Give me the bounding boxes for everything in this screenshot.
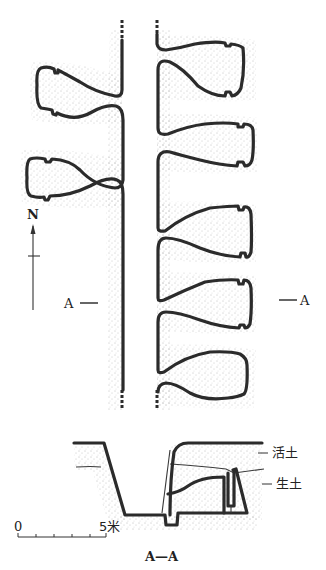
scale-end-label: 5米: [99, 520, 120, 533]
north-label: N: [27, 208, 39, 221]
scale-start-label: 0: [14, 520, 22, 533]
topsoil-boundary-left: [76, 467, 101, 468]
north-arrow: [28, 224, 40, 310]
section-title: A—A: [145, 550, 178, 563]
layer-label-subsoil: 生土: [276, 477, 302, 490]
section-view: [74, 443, 272, 530]
section-marker-right: A: [300, 294, 309, 307]
section-marker-left: A: [64, 297, 73, 310]
layer-label-topsoil: 活土: [272, 446, 298, 459]
scale-bar: [18, 533, 106, 537]
plan-view: [20, 20, 297, 410]
